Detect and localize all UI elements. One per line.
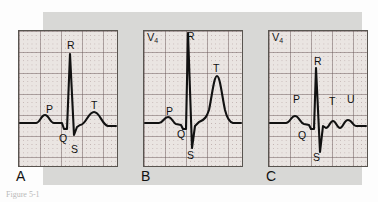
wave-label-p: P [166,106,173,117]
wave-label-s: S [313,152,320,163]
wave-label-t: T [91,100,97,111]
wave-label-q: Q [59,133,67,144]
panel-letter-a: A [16,168,25,184]
ecg-panel-c: V4 P R Q S T U [268,30,368,167]
ecg-panel-b: V4 P R Q S T [143,30,243,167]
lead-label-c-subscript: 4 [279,37,283,44]
wave-label-r: R [187,31,195,42]
wave-label-u: U [347,94,355,105]
wave-label-p: P [46,104,53,115]
wave-label-p: P [293,94,300,105]
wave-label-t: T [213,63,219,74]
wave-label-s: S [187,150,194,161]
ecg-panel-a: P R Q S T [18,30,118,167]
wave-label-r: R [314,56,322,67]
wave-label-q: Q [298,130,306,141]
figure-caption: Figure 5-1 [6,190,40,199]
wave-label-s: S [71,144,78,155]
lead-label-b-subscript: 4 [154,37,158,44]
ecg-grid-paper-b [143,30,243,167]
panel-letter-b: B [141,168,150,184]
lead-label-c: V4 [272,31,283,43]
lead-label-b: V4 [147,31,158,43]
panel-letter-c: C [266,168,276,184]
wave-label-t: T [329,96,335,107]
wave-label-q: Q [177,129,185,140]
wave-label-r: R [67,40,75,51]
ecg-figure: P R Q S T A V4 P R Q S T B V4 P R Q S T … [0,0,378,202]
